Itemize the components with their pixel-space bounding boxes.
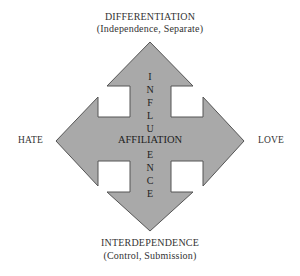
vertical-letter: F <box>144 96 156 109</box>
top-pole-title: DIFFERENTIATION <box>0 11 300 22</box>
vertical-letter: N <box>144 161 156 174</box>
right-pole-label: LOVE <box>258 135 284 145</box>
vertical-letter: N <box>144 83 156 96</box>
bottom-pole-subtitle: (Control, Submission) <box>0 250 300 261</box>
left-pole-label: HATE <box>18 135 43 145</box>
vertical-letter: L <box>144 109 156 122</box>
vertical-letter: C <box>144 174 156 187</box>
top-pole-subtitle: (Independence, Separate) <box>0 23 300 34</box>
bottom-pole-title: INTERDEPENDENCE <box>0 237 300 248</box>
vertical-letter: E <box>144 148 156 161</box>
vertical-letter: E <box>144 187 156 200</box>
vertical-letter: I <box>144 70 156 83</box>
center-label: AFFILIATION <box>110 134 190 145</box>
